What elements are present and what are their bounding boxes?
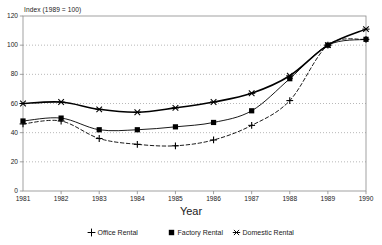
series-domestic-rental [19,26,369,115]
y-tick-label: 0 [0,187,18,194]
plus-icon [96,135,103,142]
x-tick-label: 1982 [46,195,76,202]
square-icon [167,228,176,237]
x-tick-label: 1984 [122,195,152,202]
y-tick-label: 80 [0,70,18,77]
asterisk-icon [172,105,179,111]
asterisk-icon [134,109,141,115]
y-tick-label: 60 [0,100,18,107]
square-icon [249,108,254,113]
square-icon [211,120,216,125]
asterisk-icon [232,228,241,237]
square-icon [97,127,102,132]
x-tick-label: 1988 [275,195,305,202]
square-icon [173,124,178,129]
asterisk-icon [58,99,65,105]
asterisk-icon [96,107,103,113]
legend-label-factory-rental: Factory Rental [178,229,224,236]
legend-item-domestic-rental[interactable]: Domestic Rental [232,228,294,237]
x-axis-title: Year [0,206,382,217]
x-tick-label: 1986 [199,195,229,202]
x-tick-label: 1981 [8,195,38,202]
asterisk-icon [248,90,255,96]
y-axis-title: Index (1989 = 100) [24,7,81,14]
legend-item-factory-rental[interactable]: Factory Rental [167,228,223,237]
y-tick-label: 120 [0,12,18,19]
series-line-domestic-rental [23,29,366,112]
x-tick-label: 1987 [237,195,267,202]
legend-label-domestic-rental: Domestic Rental [243,229,294,236]
data-series-layer [19,26,369,149]
y-tick-label: 100 [0,41,18,48]
y-tick-label: 40 [0,129,18,136]
plus-icon [248,122,255,129]
series-line-factory-rental [23,39,366,130]
x-tick-label: 1989 [313,195,343,202]
y-tick-label: 20 [0,158,18,165]
legend-item-office-rental[interactable]: Office Rental [87,228,138,237]
square-icon [59,115,64,120]
plus-icon [172,142,179,149]
square-icon [135,127,140,132]
x-tick-label: 1990 [351,195,381,202]
plus-icon [134,141,141,148]
asterisk-icon [210,99,217,105]
square-icon [20,118,25,123]
rental-index-chart: Index (1989 = 100) Year 020406080100120 … [0,0,382,245]
series-factory-rental [20,37,368,133]
legend-label-office-rental: Office Rental [98,229,138,236]
plus-icon [87,228,96,237]
plus-icon [210,137,217,144]
x-tick-label: 1985 [160,195,190,202]
x-tick-label: 1983 [84,195,114,202]
square-icon [363,37,368,42]
